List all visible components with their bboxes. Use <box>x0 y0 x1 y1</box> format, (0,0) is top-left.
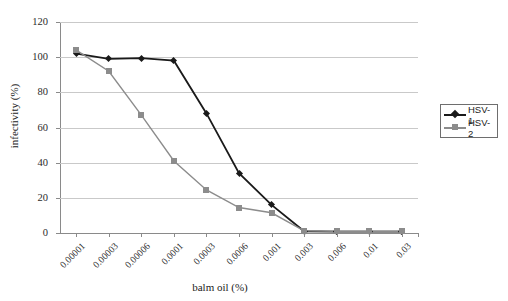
data-point-hsv-2 <box>269 210 275 216</box>
series-lines-group <box>60 22 418 233</box>
y-tick-mark <box>56 92 60 93</box>
y-tick-mark <box>56 128 60 129</box>
y-tick-label: 120 <box>14 17 48 27</box>
y-tick-mark <box>56 22 60 23</box>
x-tick-mark <box>418 233 419 237</box>
x-tick-mark <box>272 233 273 237</box>
y-tick-mark <box>56 233 60 234</box>
data-point-hsv-2 <box>236 205 242 211</box>
x-axis-title: balm oil (%) <box>0 281 440 293</box>
x-tick-mark <box>109 233 110 237</box>
x-tick-mark <box>141 233 142 237</box>
data-point-hsv-2 <box>138 112 144 118</box>
legend-item-hsv-2[interactable]: HSV-2 <box>444 121 494 134</box>
x-tick-mark <box>337 233 338 237</box>
plot-area <box>60 22 418 233</box>
y-axis-title: infectivity (%) <box>8 56 20 176</box>
x-tick-mark <box>402 233 403 237</box>
x-tick-mark <box>206 233 207 237</box>
chart-legend: HSV-1 HSV-2 <box>440 104 498 138</box>
data-point-hsv-2 <box>203 187 209 193</box>
data-point-hsv-2 <box>171 158 177 164</box>
y-tick-label: 20 <box>14 193 48 203</box>
x-tick-mark <box>174 233 175 237</box>
x-tick-mark <box>369 233 370 237</box>
legend-marker-hsv-2-icon <box>444 122 466 133</box>
y-tick-label: 0 <box>14 228 48 238</box>
x-tick-mark <box>304 233 305 237</box>
y-tick-mark <box>56 163 60 164</box>
legend-marker-hsv-1-icon <box>444 109 466 120</box>
y-tick-mark <box>56 198 60 199</box>
x-tick-mark <box>239 233 240 237</box>
legend-label-hsv-2: HSV-2 <box>466 117 494 139</box>
x-tick-mark <box>76 233 77 237</box>
data-point-hsv-2 <box>106 68 112 74</box>
y-tick-mark <box>56 57 60 58</box>
data-point-hsv-2 <box>73 47 79 53</box>
chart-container: 020406080100120 0.000010.000030.000060.0… <box>0 0 508 301</box>
